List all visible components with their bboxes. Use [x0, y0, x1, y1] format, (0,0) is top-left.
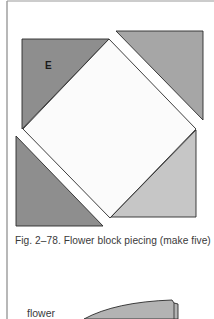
piece-label-e: E: [45, 60, 52, 71]
flower-label: flower: [27, 307, 55, 319]
flower-block-diagram: [0, 0, 214, 319]
document-page: E Fig. 2–78. Flower block piecing (make …: [0, 0, 214, 319]
flower-curve-shape: [84, 300, 178, 319]
figure-caption: Fig. 2–78. Flower block piecing (make fi…: [15, 235, 211, 246]
